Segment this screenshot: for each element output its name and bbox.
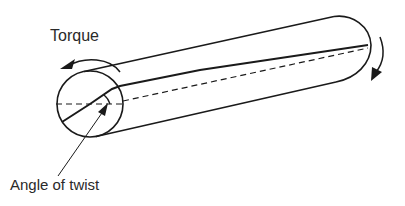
shaft-top-edge (84, 17, 334, 72)
arrowhead-right-icon (371, 67, 382, 81)
torque-arrow-right (376, 37, 383, 72)
angle-of-twist-label: Angle of twist (10, 176, 99, 193)
angle-arc (104, 95, 110, 104)
shaft-bottom-edge (96, 82, 336, 137)
twisted-line (62, 45, 368, 122)
torque-label: Torque (50, 27, 99, 45)
angle-pointer-arrowhead-icon (98, 103, 108, 116)
shaft (57, 16, 371, 137)
arrowhead-left-icon (60, 59, 75, 69)
